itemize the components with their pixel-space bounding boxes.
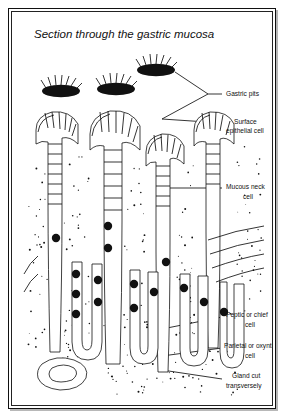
label-mucous-neck-line2: cell [243, 193, 253, 200]
diagram-stage: Section through the gastric mucosa [12, 12, 272, 405]
gastric-pit-group-3 [136, 54, 177, 76]
leader-gland-transverse [162, 370, 222, 379]
label-parietal-oxyntic: Parietal or oxyntic cell [224, 342, 272, 359]
label-peptic-chief-line2: cell [245, 321, 255, 328]
gastric-pit-group-1 [41, 75, 82, 97]
figure-root: Section through the gastric mucosa [0, 0, 286, 419]
label-mucous-neck-line1: Mucous neck [226, 183, 266, 190]
gastric-mucosa-plate: Section through the gastric mucosa [12, 12, 272, 405]
label-gland-transverse-line1: Gland cut [232, 372, 260, 379]
label-gastric-pits: Gastric pits [226, 90, 260, 98]
label-parietal-oxyntic-line1: Parietal or oxyntic [224, 342, 272, 350]
gland-cross-section [38, 358, 87, 390]
label-parietal-oxyntic-line2: cell [245, 352, 255, 359]
label-gland-transverse: Gland cut transversely [226, 372, 262, 390]
label-peptic-chief: Peptic or chief cell [226, 311, 268, 328]
label-surface-epithelial-line1: Surface [234, 118, 257, 125]
gastric-pit-group-2 [96, 73, 137, 95]
label-gastric-pits-line1: Gastric pits [226, 90, 260, 98]
label-mucous-neck: Mucous neck cell [226, 183, 266, 200]
figure-title: Section through the gastric mucosa [34, 28, 214, 40]
label-peptic-chief-line1: Peptic or chief [226, 311, 268, 319]
label-surface-epithelial-line2: epithelial cell [226, 127, 264, 135]
label-gland-transverse-line2: transversely [226, 382, 262, 390]
